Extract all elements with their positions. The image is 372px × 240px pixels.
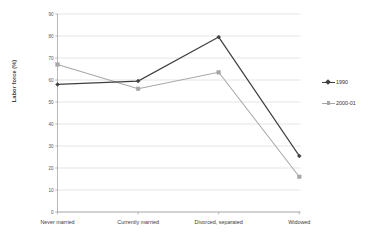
svg-text:50: 50 — [48, 100, 54, 105]
svg-text:70: 70 — [48, 56, 54, 61]
x-axis-labels: Never marriedCurrently marriedDivorced, … — [40, 219, 310, 225]
svg-text:30: 30 — [48, 144, 54, 149]
gridlines — [58, 14, 301, 212]
svg-text:10: 10 — [48, 188, 54, 193]
x-axis-ticks — [58, 212, 300, 214]
svg-text:20: 20 — [48, 166, 54, 171]
svg-text:Widowed: Widowed — [288, 219, 310, 225]
legend-label-2000-01: 2000-01 — [336, 100, 356, 106]
svg-text:80: 80 — [48, 34, 54, 39]
legend-label-1990: 1990 — [336, 79, 348, 85]
svg-text:Currently married: Currently married — [117, 219, 159, 225]
svg-text:Divorced, separated: Divorced, separated — [195, 219, 243, 225]
y-axis-ticks: 0102030405060708090 — [48, 12, 57, 215]
axis-lines — [58, 14, 301, 212]
legend-item-1990[interactable]: 1990 — [322, 76, 372, 88]
svg-text:0: 0 — [51, 210, 54, 215]
svg-text:60: 60 — [48, 78, 54, 83]
legend-marker-square-icon — [322, 100, 335, 107]
legend: 1990 2000-01 — [322, 76, 372, 118]
svg-text:Never married: Never married — [40, 219, 74, 225]
legend-item-2000-01[interactable]: 2000-01 — [322, 97, 372, 109]
svg-text:90: 90 — [48, 12, 54, 17]
svg-text:40: 40 — [48, 122, 54, 127]
plot-area: 0102030405060708090 Never marriedCurrent… — [0, 0, 372, 240]
legend-marker-diamond-icon — [322, 79, 335, 86]
chart-container: Labor force (%) 0102030405060708090 Neve… — [0, 0, 372, 240]
data-series — [56, 35, 302, 179]
